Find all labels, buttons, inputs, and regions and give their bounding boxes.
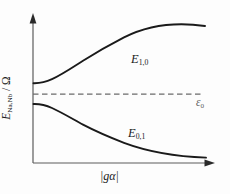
- y-axis-label: ENa,Nb / Ω: [0, 58, 14, 138]
- lower-branch-label-sub: 0,1: [136, 132, 146, 141]
- curve-upper-branch: [34, 24, 206, 83]
- lower-branch-label: E0,1: [128, 127, 145, 140]
- y-axis-label-sub: Na,Nb: [6, 94, 14, 113]
- curve-lower-branch: [34, 104, 207, 158]
- asymptote-label: ε0: [196, 97, 204, 109]
- y-axis-label-denominator: / Ω: [0, 76, 12, 94]
- x-axis-label: |gα|: [100, 170, 119, 182]
- y-axis-label-rotated: ENa,Nb / Ω: [1, 76, 13, 119]
- asymptote-label-base: ε: [196, 96, 201, 108]
- y-axis: [30, 13, 37, 163]
- figure-canvas: E1,0 E0,1 ε0 |gα| ENa,Nb / Ω: [0, 0, 230, 194]
- y-axis-label-base: E: [0, 113, 12, 120]
- upper-branch-label-sub: 1,0: [139, 58, 149, 67]
- lower-branch-label-base: E: [128, 126, 136, 140]
- upper-branch-label: E1,0: [131, 53, 148, 66]
- upper-branch-label-base: E: [131, 52, 139, 66]
- x-axis: [33, 159, 215, 166]
- y-axis-arrowhead: [30, 13, 37, 24]
- x-axis-arrowhead: [205, 159, 216, 166]
- asymptote-label-sub: 0: [201, 102, 205, 110]
